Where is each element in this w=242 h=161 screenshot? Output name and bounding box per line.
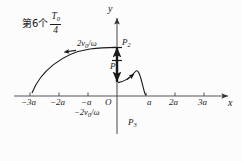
- y-axis-label: y: [108, 4, 112, 14]
- x-tick-minus-a: −a: [81, 98, 92, 107]
- figure-canvas: 第6个 T0 4 y x O −3a −2a −a a 2a 3a 2v0/ω …: [0, 0, 242, 161]
- positive-velocity-label: 2v0/ω: [77, 39, 97, 50]
- negative-velocity-label: −2v0/ω: [74, 108, 99, 119]
- x-tick-a: a: [147, 98, 152, 107]
- x-tick-minus-3a: −3a: [21, 98, 36, 107]
- fraction-T0-over-4: T0 4: [50, 12, 61, 35]
- x-axis: [14, 93, 228, 97]
- fraction-numerator: T0: [50, 12, 61, 23]
- origin-label: O: [105, 98, 112, 107]
- x-tick-3a: 3a: [198, 98, 207, 107]
- lower-arc-curve: [118, 65, 147, 96]
- annotation-text: 第6个 T0 4: [22, 12, 61, 35]
- point-label-P1: P1: [110, 62, 119, 73]
- annotation-prefix: 第6个: [22, 19, 48, 29]
- x-tick-minus-2a: −2a: [50, 98, 65, 107]
- point-label-P3: P3: [128, 118, 137, 129]
- point-label-P2: P2: [122, 38, 131, 49]
- x-axis-label: x: [228, 98, 232, 108]
- fraction-denominator: 4: [53, 26, 58, 36]
- upper-arc-curve: [32, 47, 116, 93]
- x-tick-2a: 2a: [169, 98, 178, 107]
